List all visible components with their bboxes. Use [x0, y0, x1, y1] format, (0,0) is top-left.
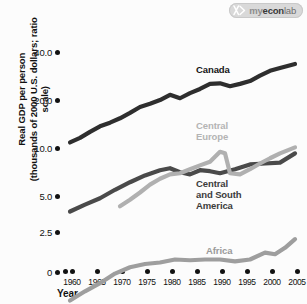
- y-tick-0: 0: [0, 266, 60, 278]
- x-tick-dot-1970: [120, 269, 125, 274]
- logo-text-econ: econ: [263, 5, 284, 16]
- x-tick-dot-2005: [295, 269, 300, 274]
- series-label-africa: Africa: [206, 245, 232, 256]
- y-tick-dot-0: [55, 270, 60, 275]
- series-label-central-europe-line1: Central: [196, 120, 228, 131]
- series-label-central-and-south-america: Central and South America: [196, 178, 242, 211]
- y-tick-dot-10: [55, 146, 60, 151]
- series-line-central-and-south-america: [70, 153, 295, 211]
- y-tick-label-40: 40.0: [34, 47, 52, 58]
- x-tick-label-2005: 2005: [284, 277, 307, 287]
- myeconlab-mark-icon: [233, 5, 246, 16]
- series-label-central-europe-line2: Europe: [196, 131, 228, 142]
- x-tick-dot-1960: [70, 269, 75, 274]
- y-tick-label-10: 10.0: [34, 143, 52, 154]
- y-tick-2-5: 2.5: [0, 226, 60, 238]
- y-tick-dot-20: [55, 98, 60, 103]
- y-tick-label-5: 5.0: [39, 191, 52, 202]
- y-tick-5: 5.0: [0, 190, 60, 202]
- myeconlab-wordmark: myeconlab: [249, 6, 296, 16]
- chart-figure: myeconlab Real GDP per person (thousands…: [0, 0, 307, 304]
- logo-text-my: my: [249, 5, 262, 16]
- y-tick-label-20: 20.0: [34, 95, 52, 106]
- y-tick-40: 40.0: [0, 46, 60, 58]
- x-tick-label-1975: 1975: [134, 277, 160, 287]
- x-tick-label-1985: 1985: [184, 277, 210, 287]
- x-tick-label-1965: 1965: [84, 277, 110, 287]
- y-tick-10: 10.0: [0, 142, 60, 154]
- series-line-canada: [70, 64, 295, 143]
- x-tick-dot-1995: [245, 269, 250, 274]
- x-tick-label-1980: 1980: [159, 277, 185, 287]
- x-tick-dot-1990: [220, 269, 225, 274]
- x-tick-dot-1985: [195, 269, 200, 274]
- myeconlab-logo: myeconlab: [229, 3, 303, 18]
- x-axis-origin-dot: [63, 269, 68, 274]
- x-tick-dot-1965: [95, 269, 100, 274]
- x-axis-title: Year: [57, 288, 78, 299]
- series-label-csam-line1: Central: [196, 178, 242, 189]
- x-tick-dot-1975: [145, 269, 150, 274]
- series-label-central-europe: Central Europe: [196, 120, 228, 142]
- y-tick-label-2-5: 2.5: [39, 227, 52, 238]
- series-label-canada: Canada: [196, 64, 230, 75]
- x-tick-label-1970: 1970: [109, 277, 135, 287]
- y-tick-20: 20.0: [0, 94, 60, 106]
- x-tick-dot-2000: [270, 269, 275, 274]
- series-label-csam-line2: and South: [196, 189, 242, 200]
- logo-text-lab: lab: [284, 5, 296, 16]
- x-tick-dot-1980: [170, 269, 175, 274]
- x-tick-label-2000: 2000: [259, 277, 285, 287]
- series-line-africa: [70, 239, 295, 300]
- series-label-csam-line3: America: [196, 200, 242, 211]
- x-tick-label-1960: 1960: [59, 277, 85, 287]
- x-tick-label-1995: 1995: [234, 277, 260, 287]
- y-tick-dot-40: [55, 50, 60, 55]
- y-tick-dot-5: [55, 194, 60, 199]
- y-tick-dot-2-5: [55, 230, 60, 235]
- y-tick-label-0: 0: [47, 267, 52, 278]
- x-tick-label-1990: 1990: [209, 277, 235, 287]
